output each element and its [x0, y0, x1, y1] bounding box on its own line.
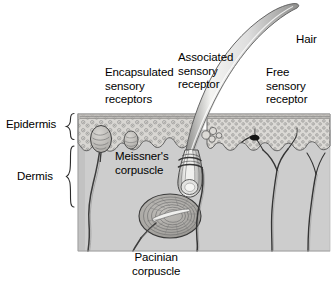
associated-sensory-receptor-label: Associated sensory receptor	[178, 51, 233, 92]
skin-receptors-figure: Epidermis Dermis Encapsulated sensory re…	[0, 0, 335, 286]
dermis-brace	[67, 146, 75, 207]
meissner-corpuscle-label: Meissner's corpuscle	[115, 150, 169, 177]
encapsulated-sensory-receptors-label: Encapsulated sensory receptors	[105, 66, 174, 107]
dermis-layer-label: Dermis	[17, 170, 53, 184]
epidermis-brace	[67, 114, 75, 140]
pacinian-corpuscle-label: Pacinian corpuscle	[132, 251, 180, 278]
meissner-corpuscle-secondary	[124, 131, 138, 149]
free-sensory-receptor-label: Free sensory receptor	[266, 66, 307, 107]
epidermis-layer-label: Epidermis	[6, 118, 56, 132]
skin-cross-section-artwork	[0, 0, 335, 286]
hair-label: Hair	[296, 33, 317, 47]
